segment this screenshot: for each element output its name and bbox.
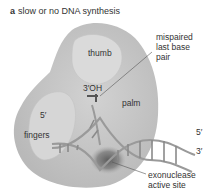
five-prime-right-label: 5′ — [196, 127, 202, 137]
fingers-label: fingers — [24, 130, 50, 140]
palm-label: palm — [122, 98, 140, 108]
mispaired-label-line2: last base — [156, 42, 190, 52]
mispaired-label-line3: pair — [156, 52, 170, 62]
exonuclease-label-line2: active site — [148, 180, 186, 190]
three-prime-right-label: 3′ — [196, 146, 202, 156]
five-prime-left-label: 5′ — [40, 110, 46, 120]
exonuclease-label-line1: exonuclease — [148, 170, 196, 180]
three-prime-oh-label: 3′OH — [83, 83, 102, 93]
polymerase-diagram — [0, 0, 213, 194]
thumb-label: thumb — [88, 48, 112, 58]
mispaired-label-line1: mispaired — [156, 32, 193, 42]
